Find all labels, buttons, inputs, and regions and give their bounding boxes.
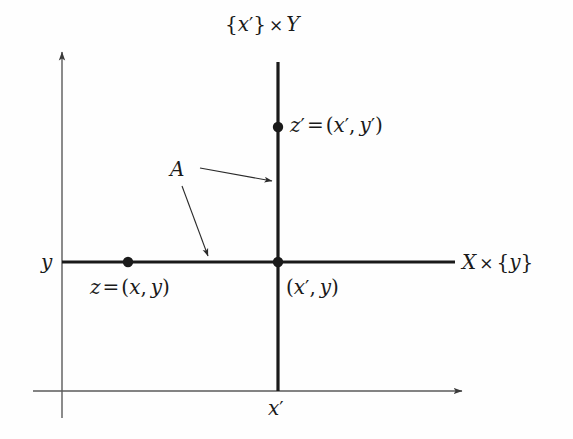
point-z	[123, 257, 133, 267]
arrow-a-to-vertical-slice	[200, 168, 272, 181]
label-top-axis: {x′}×Y	[225, 14, 300, 34]
coordinate-axes	[33, 52, 462, 418]
slice-lines	[62, 62, 455, 391]
label-set-a: A	[170, 159, 184, 179]
arrow-a-to-horizontal-slice	[182, 186, 208, 256]
marked-points	[123, 122, 283, 267]
label-right-axis: X×{y}	[462, 252, 533, 272]
diagram-svg	[0, 0, 573, 439]
annotation-arrows	[182, 168, 272, 256]
label-bottom-axis: x′	[268, 398, 284, 418]
point-z-prime	[273, 122, 283, 132]
label-point-z: z=(x, y)	[90, 277, 170, 297]
figure-canvas: {x′}×Y z′=(x′, y′) A y X×{y} z=(x, y) (x…	[0, 0, 573, 439]
label-y-axis: y	[41, 252, 52, 272]
label-point-z-prime: z′=(x′, y′)	[290, 115, 383, 135]
point-intersection	[273, 257, 283, 267]
label-point-intersection: (x′, y)	[286, 277, 339, 297]
